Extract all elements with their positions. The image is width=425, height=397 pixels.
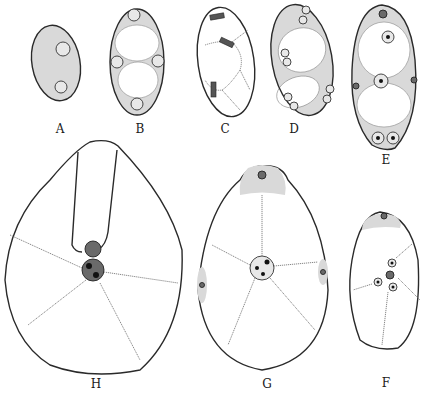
spindle [211,82,216,97]
panel-label-h: H [91,377,101,391]
nucleus [281,49,289,57]
nucleus [386,271,394,279]
vacuole [357,83,411,127]
nucleolus [86,263,92,269]
nucleus [323,95,331,103]
embryo-sac-plate: A B C D [0,0,425,397]
nucleolus [391,262,394,265]
pollen-tube [72,150,117,252]
nucleus [381,213,387,219]
nucleus [283,58,291,66]
lower-vacuole [118,62,158,98]
panel-h: H [5,141,182,391]
cell-wall [26,21,86,104]
nucleus [200,283,205,288]
nucleus [290,102,298,110]
synergid-nucleus [85,241,101,257]
spindle [210,13,225,20]
vacuole [358,22,410,78]
panel-b: B [110,9,164,136]
nucleolus [255,266,259,270]
spindle [219,37,234,47]
panel-label-e: E [382,153,391,167]
nucleus [321,270,326,275]
nucleus [152,55,164,67]
nucleus [131,98,143,110]
upper-vacuole [115,25,159,61]
panel-label-a: A [55,122,65,136]
panel-g: G [197,165,328,391]
nucleolus [376,136,380,140]
apex-cytoplasm [240,165,286,195]
nucleolus [261,272,265,276]
nucleolus [265,260,270,265]
nucleus [299,16,307,24]
panel-d: D [263,0,342,136]
nucleolus [391,136,395,140]
nucleus [284,93,292,101]
panel-f: F [350,212,420,390]
nucleolus [392,286,395,289]
nucleus [56,42,70,56]
panel-c: C [191,4,262,136]
nucleus [379,10,387,18]
nucleus [411,77,417,83]
nucleolus [379,79,383,83]
cytoplasm-strand [353,244,420,345]
nucleolus [93,272,99,278]
panel-label-g: G [262,377,272,391]
nucleus [353,83,359,89]
panel-label-c: C [220,122,229,136]
panel-a: A [26,21,86,136]
nucleus [111,56,123,68]
panel-label-f: F [382,376,390,390]
nucleus [258,171,266,179]
central-nucleus [250,256,274,280]
cell-wall [191,4,262,121]
cytoplasm-strand [205,41,241,90]
panel-e: E [352,5,417,167]
nucleus [302,6,310,14]
fusion-nucleus [82,259,104,281]
panel-label-d: D [289,122,299,136]
nucleolus [386,35,390,39]
nucleus [326,85,334,93]
panel-label-b: B [136,122,145,136]
nucleus [128,9,140,21]
nucleus [55,81,67,93]
nucleolus [377,281,380,284]
